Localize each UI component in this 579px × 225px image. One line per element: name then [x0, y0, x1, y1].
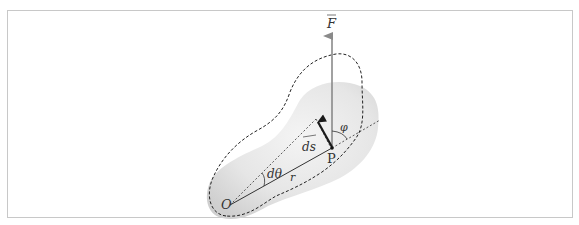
phi-label: φ	[340, 121, 348, 134]
svg-text:ds: ds	[302, 140, 316, 154]
svg-text:F: F	[326, 16, 337, 31]
origin-label: O	[221, 197, 232, 212]
point-p-dot	[330, 146, 334, 150]
dtheta-label: dθ	[267, 167, 283, 181]
rigid-body-rotation-diagram: F O P ds r dθ φ	[0, 0, 579, 225]
force-label: F	[326, 15, 337, 31]
rigid-body-shape	[207, 82, 379, 219]
point-label: P	[327, 151, 336, 166]
radius-label: r	[290, 171, 296, 184]
